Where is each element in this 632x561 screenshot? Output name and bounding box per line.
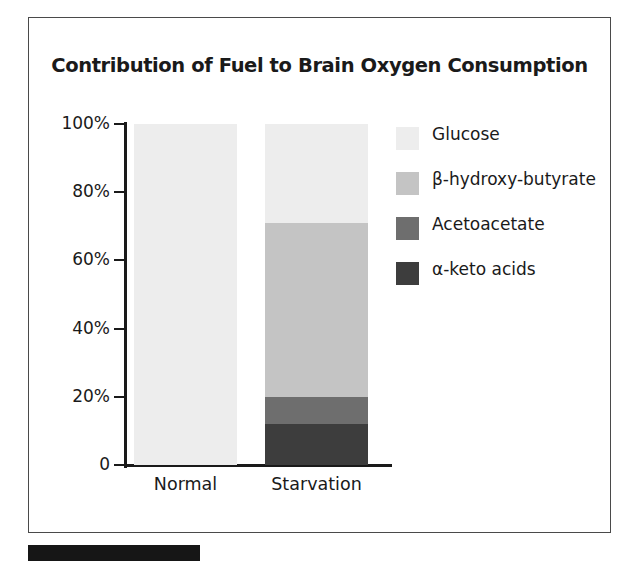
legend-swatch (396, 127, 419, 150)
y-tick-label: 100% (24, 113, 110, 133)
legend-item: β-hydroxy-butyrate (396, 169, 606, 214)
stacked-bar (134, 124, 237, 465)
page-bottom-black-tab (28, 545, 200, 561)
bar-segment (265, 397, 368, 424)
x-category-label: Starvation (242, 474, 392, 494)
y-axis-line (124, 122, 127, 468)
y-tick-label: 40% (24, 318, 110, 338)
chart-title: Contribution of Fuel to Brain Oxygen Con… (28, 54, 611, 77)
y-tick-label: 0 (24, 454, 110, 474)
y-tick-mark (114, 328, 124, 330)
bar-segment (134, 124, 237, 465)
y-tick-mark (114, 123, 124, 125)
stacked-bar (265, 124, 368, 465)
legend-label: Acetoacetate (432, 214, 545, 234)
x-category-label: Normal (111, 474, 261, 494)
legend: Glucoseβ-hydroxy-butyrateAcetoacetateα-k… (396, 124, 606, 304)
legend-item: α-keto acids (396, 259, 606, 304)
y-tick-label: 60% (24, 249, 110, 269)
legend-label: α-keto acids (432, 259, 536, 279)
y-tick-mark (114, 191, 124, 193)
legend-swatch (396, 172, 419, 195)
bar-segment (265, 223, 368, 397)
y-tick-label: 80% (24, 181, 110, 201)
bar-segment (265, 424, 368, 465)
bar-segment (265, 124, 368, 223)
legend-swatch (396, 217, 419, 240)
legend-label: Glucose (432, 124, 500, 144)
legend-item: Acetoacetate (396, 214, 606, 259)
y-tick-label: 20% (24, 386, 110, 406)
y-tick-mark (114, 259, 124, 261)
legend-item: Glucose (396, 124, 606, 169)
legend-label: β-hydroxy-butyrate (432, 169, 596, 189)
legend-swatch (396, 262, 419, 285)
y-tick-mark (114, 396, 124, 398)
y-tick-mark (114, 464, 124, 466)
